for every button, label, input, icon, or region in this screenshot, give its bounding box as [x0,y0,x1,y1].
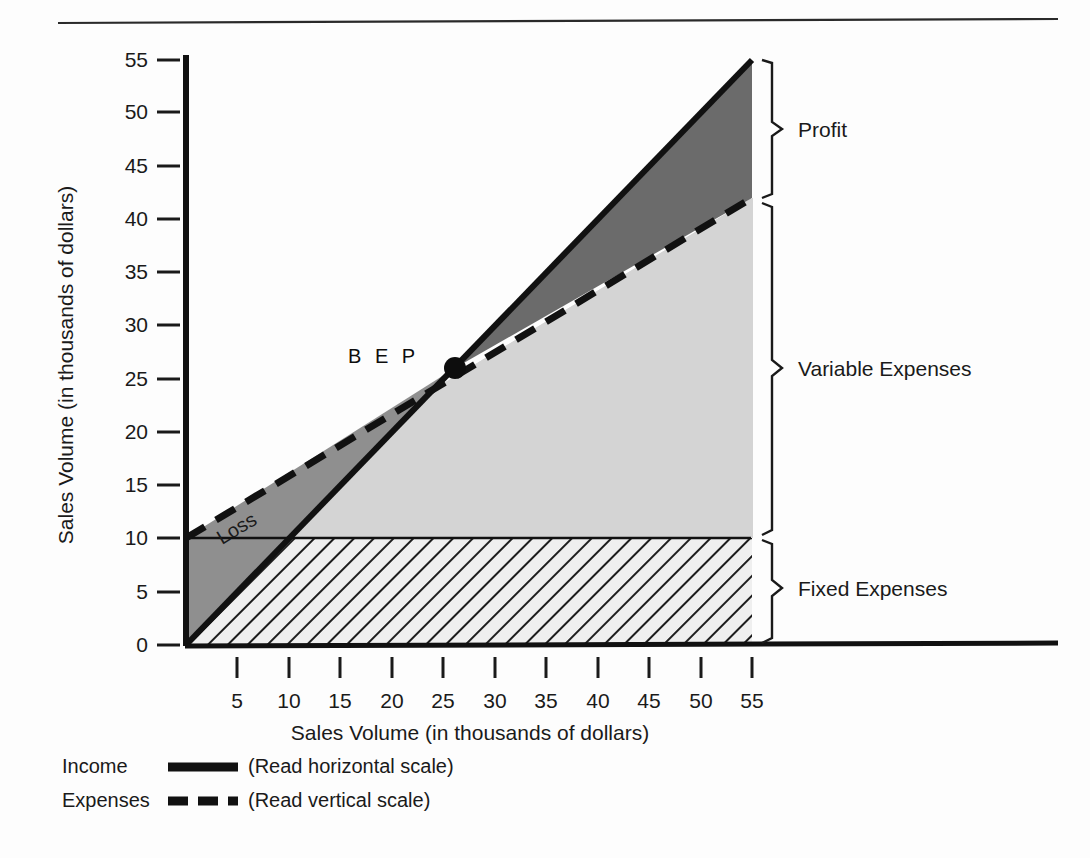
break-even-point-marker [444,357,466,379]
y-tick-label: 10 [125,526,148,549]
x-tick-label: 40 [586,689,609,712]
y-tick-label: 20 [125,420,148,443]
x-tick-label: 20 [380,689,403,712]
x-tick-label: 55 [740,689,763,712]
legend-note-income: (Read horizontal scale) [248,755,454,777]
y-tick-label: 0 [136,633,148,656]
y-tick-label: 25 [125,367,148,390]
bracket-label-fixed-expenses: Fixed Expenses [798,577,947,600]
x-tick-label: 35 [534,689,557,712]
x-tick-label: 15 [328,689,351,712]
x-tick-label: 10 [277,689,300,712]
x-tick-label: 50 [689,689,712,712]
x-axis-title: Sales Volume (in thousands of dollars) [291,721,649,744]
bep-label: B E P [348,345,419,367]
x-tick-label: 5 [231,689,243,712]
y-tick-label: 40 [125,207,148,230]
legend-note-expenses: (Read vertical scale) [248,789,430,811]
y-tick-label: 35 [125,260,148,283]
y-tick-label: 55 [125,48,148,71]
y-tick-label: 50 [125,100,148,123]
legend-label-income: Income [62,755,128,777]
y-tick-label: 30 [125,313,148,336]
bracket-label-profit: Profit [798,118,847,141]
y-tick-label: 5 [136,580,148,603]
y-axis-title: Sales Volume (in thousands of dollars) [54,186,77,544]
x-tick-label: 30 [483,689,506,712]
y-tick-label: 45 [125,154,148,177]
break-even-chart-figure: B E P Loss 0 5 10 15 20 25 30 35 40 45 5… [0,0,1090,858]
legend-label-expenses: Expenses [62,789,150,811]
bracket-label-variable-expenses: Variable Expenses [798,357,972,380]
x-tick-label: 25 [431,689,454,712]
x-axis-spine [185,643,1058,646]
x-tick-label: 45 [637,689,660,712]
y-tick-label: 15 [125,473,148,496]
